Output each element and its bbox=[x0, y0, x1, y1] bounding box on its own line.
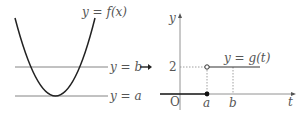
right-graph: y t O 2 a b y = g(t) bbox=[160, 11, 296, 110]
diagram-canvas: y = f(x) y = b y = a y t O 2 a b y = g(t… bbox=[0, 0, 301, 117]
curve-g-label: y = g(t) bbox=[223, 51, 271, 65]
line-b-label: y = b bbox=[109, 60, 142, 74]
parabola-f bbox=[15, 18, 95, 96]
line-a-label: y = a bbox=[109, 89, 142, 103]
tick-b-label: b bbox=[229, 96, 237, 110]
open-point-icon bbox=[205, 65, 209, 69]
y-axis-arrow-icon bbox=[178, 13, 182, 18]
y-axis-label: y bbox=[168, 11, 176, 25]
left-graph: y = f(x) y = b y = a bbox=[15, 5, 142, 103]
tick-2-label: 2 bbox=[169, 60, 177, 74]
t-axis-label: t bbox=[288, 95, 293, 109]
tick-a-label: a bbox=[203, 96, 210, 110]
curve-f-label: y = f(x) bbox=[81, 5, 127, 19]
origin-label: O bbox=[170, 95, 180, 109]
